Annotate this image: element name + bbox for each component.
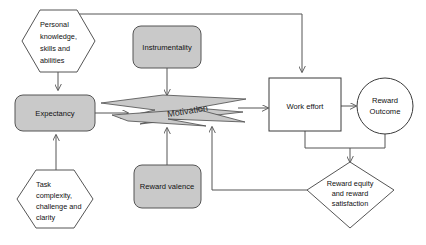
personal-knowledge-line-1: Personal xyxy=(40,20,69,29)
task-complexity-line-2: complexity, xyxy=(36,191,72,200)
task-complexity-line-1: Task xyxy=(36,180,51,189)
task-complexity-line-4: clarity xyxy=(36,213,55,222)
personal-knowledge-line-2: knowledge, xyxy=(40,32,77,41)
expectancy-label: Expectancy xyxy=(35,109,74,118)
node-motivation[interactable]: Motivation xyxy=(101,95,246,126)
task-complexity-line-3: challenge and xyxy=(36,202,81,211)
node-work-effort[interactable]: Work effort xyxy=(269,78,341,131)
reward-outcome-line-1: Reward xyxy=(372,96,398,105)
node-reward-equity[interactable]: Reward equity and reward satisfaction xyxy=(307,162,394,228)
diagram-canvas: Personal knowledge, skills and abilities… xyxy=(0,0,426,245)
personal-knowledge-line-3: skills and xyxy=(40,44,70,53)
node-instrumentality[interactable]: Instrumentality xyxy=(133,26,201,68)
node-personal-knowledge[interactable]: Personal knowledge, skills and abilities xyxy=(22,10,95,72)
instrumentality-label: Instrumentality xyxy=(142,43,192,52)
personal-knowledge-line-4: abilities xyxy=(40,56,65,65)
node-reward-valence[interactable]: Reward valence xyxy=(134,165,201,208)
reward-valence-label: Reward valence xyxy=(140,182,194,191)
work-effort-label: Work effort xyxy=(287,102,325,111)
connector-reward-outcome-to-junction xyxy=(350,133,385,148)
connector-reward-equity-feedback-to-motivation xyxy=(212,127,307,190)
node-expectancy[interactable]: Expectancy xyxy=(15,95,95,131)
reward-equity-line-1: Reward equity xyxy=(327,179,374,188)
connector-work-effort-to-junction xyxy=(305,131,350,148)
reward-equity-line-2: and reward xyxy=(332,189,369,198)
diagram-svg: Personal knowledge, skills and abilities… xyxy=(0,0,426,245)
reward-outcome-line-2: Outcome xyxy=(370,107,401,116)
reward-equity-line-3: satisfaction xyxy=(332,199,369,208)
node-reward-outcome[interactable]: Reward Outcome xyxy=(357,78,413,134)
node-task-complexity[interactable]: Task complexity, challenge and clarity xyxy=(17,170,93,228)
